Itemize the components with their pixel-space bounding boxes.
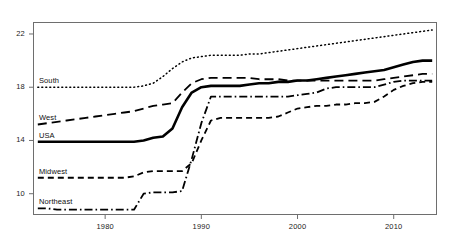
series-line-south — [38, 30, 432, 87]
y-tick-label: 18 — [3, 82, 25, 91]
series-line-west — [38, 74, 432, 125]
tick-marks — [29, 34, 394, 219]
x-tick-label: 1990 — [181, 222, 221, 231]
series-label-usa: USA — [39, 131, 55, 140]
x-tick-label: 1980 — [85, 222, 125, 231]
chart-canvas — [0, 0, 462, 250]
series-line-usa — [38, 61, 432, 142]
x-tick-label: 2010 — [374, 222, 414, 231]
series-paths — [38, 30, 432, 210]
y-tick-label: 22 — [3, 29, 25, 38]
line-chart: 10141822 1980199020002010 SouthWestUSAMi… — [0, 0, 462, 250]
series-label-northeast: Northeast — [39, 197, 72, 206]
y-tick-label: 14 — [3, 135, 25, 144]
y-tick-label: 10 — [3, 189, 25, 198]
series-label-south: South — [39, 76, 59, 85]
series-line-northeast — [38, 81, 432, 210]
x-tick-label: 2000 — [278, 222, 318, 231]
series-label-west: West — [39, 113, 56, 122]
series-label-midwest: Midwest — [39, 167, 67, 176]
